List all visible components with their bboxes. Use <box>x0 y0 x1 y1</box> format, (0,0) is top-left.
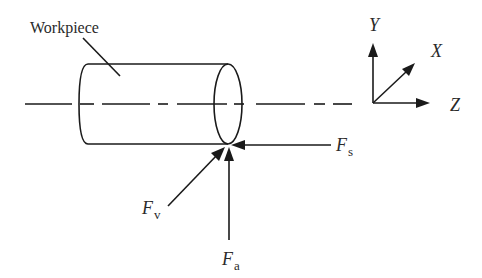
force-fv-arrow <box>168 147 225 206</box>
y-axis-label: Y <box>369 16 379 34</box>
force-fs-subscript: s <box>348 144 353 159</box>
force-fv-subscript: v <box>154 207 161 222</box>
z-axis-arrowhead <box>416 98 430 108</box>
force-fs-label: Fs <box>336 136 353 154</box>
force-fv-symbol: F <box>142 198 153 218</box>
force-fv-label: Fv <box>142 199 161 217</box>
z-axis-label: Z <box>450 96 460 114</box>
force-fs-arrow <box>231 140 331 150</box>
workpiece-label: Workpiece <box>30 20 99 36</box>
force-fa-symbol: F <box>222 249 233 269</box>
force-fa-arrow <box>224 147 234 240</box>
force-fs-symbol: F <box>336 135 347 155</box>
workpiece-leader-line <box>83 38 120 76</box>
x-axis-label: X <box>431 42 442 60</box>
y-axis-arrowhead <box>368 43 378 57</box>
force-fa-label: Fa <box>222 250 240 268</box>
coordinate-system <box>368 43 430 108</box>
workpiece-force-diagram <box>0 0 482 278</box>
force-fa-subscript: a <box>234 258 240 273</box>
